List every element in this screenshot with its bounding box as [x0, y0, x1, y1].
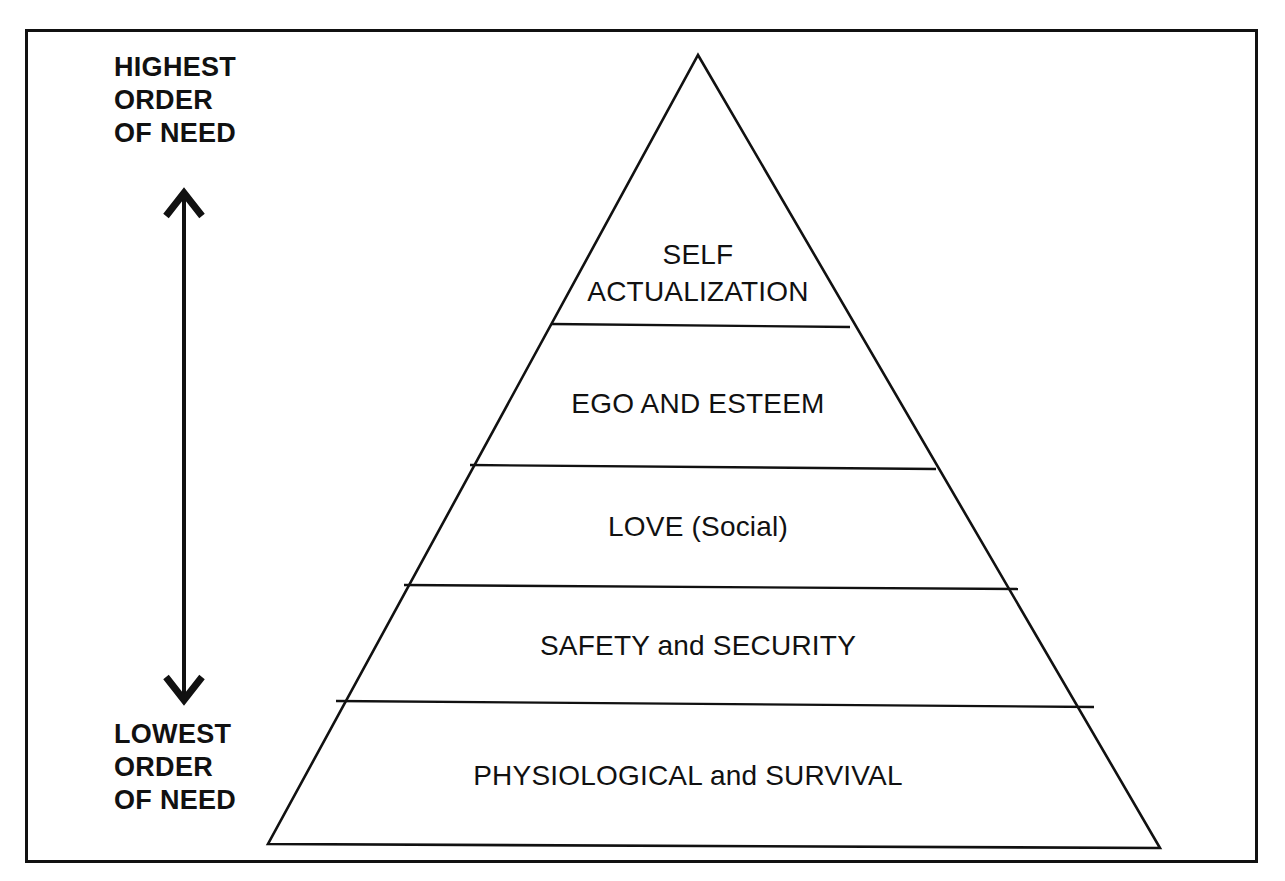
- vertical-double-arrow-icon: [166, 193, 202, 700]
- tier-divider-3: [404, 585, 1018, 589]
- pyramid-level-label-self-actualization: SELF ACTUALIZATION: [498, 236, 898, 310]
- pyramid-level-label-love-social: LOVE (Social): [398, 508, 998, 545]
- tier-divider-4: [336, 701, 1094, 707]
- highest-order-of-need-label: HIGHEST ORDER OF NEED: [114, 51, 314, 150]
- diagram-canvas: HIGHEST ORDER OF NEED LOWEST ORDER OF NE…: [0, 0, 1285, 881]
- pyramid-level-label-safety-and-security: SAFETY and SECURITY: [348, 627, 1048, 664]
- tier-divider-1: [551, 324, 850, 327]
- pyramid-level-label-ego-and-esteem: EGO AND ESTEEM: [448, 385, 948, 422]
- pyramid-level-label-physiological-and-survival: PHYSIOLOGICAL and SURVIVAL: [288, 757, 1088, 794]
- tier-divider-2: [470, 465, 936, 469]
- pyramid-outline: [268, 55, 1160, 848]
- lowest-order-of-need-label: LOWEST ORDER OF NEED: [114, 718, 314, 817]
